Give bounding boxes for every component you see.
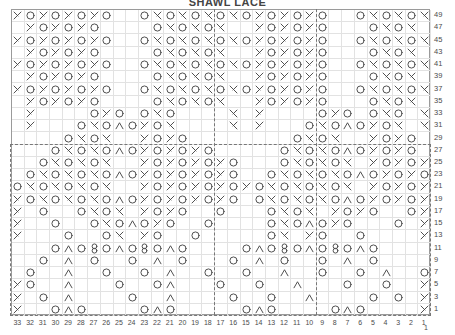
chart-cell[interactable]: [25, 47, 38, 59]
chart-cell[interactable]: [126, 157, 139, 169]
chart-cell[interactable]: [114, 71, 127, 83]
chart-cell[interactable]: [406, 255, 419, 267]
chart-cell[interactable]: [317, 34, 330, 46]
chart-cell[interactable]: [241, 10, 254, 22]
chart-cell[interactable]: [177, 169, 190, 181]
chart-cell[interactable]: [380, 292, 393, 304]
chart-cell[interactable]: [12, 157, 25, 169]
chart-cell[interactable]: [88, 304, 101, 316]
chart-cell[interactable]: [418, 169, 431, 181]
chart-cell[interactable]: [266, 22, 279, 34]
chart-cell[interactable]: [368, 47, 381, 59]
chart-cell[interactable]: [25, 59, 38, 71]
chart-cell[interactable]: [190, 108, 203, 120]
chart-cell[interactable]: [355, 108, 368, 120]
chart-cell[interactable]: [190, 267, 203, 279]
chart-cell[interactable]: [368, 255, 381, 267]
chart-cell[interactable]: [215, 292, 228, 304]
chart-cell[interactable]: [393, 145, 406, 157]
chart-cell[interactable]: [241, 157, 254, 169]
chart-cell[interactable]: [241, 108, 254, 120]
chart-cell[interactable]: [279, 230, 292, 242]
chart-cell[interactable]: [164, 194, 177, 206]
chart-cell[interactable]: [152, 145, 165, 157]
chart-cell[interactable]: [329, 194, 342, 206]
chart-cell[interactable]: [37, 96, 50, 108]
chart-cell[interactable]: [152, 218, 165, 230]
chart-cell[interactable]: [291, 145, 304, 157]
chart-cell[interactable]: [406, 230, 419, 242]
chart-cell[interactable]: [152, 10, 165, 22]
chart-cell[interactable]: [114, 59, 127, 71]
chart-cell[interactable]: [418, 22, 431, 34]
chart-cell[interactable]: [380, 47, 393, 59]
chart-cell[interactable]: [329, 59, 342, 71]
chart-cell[interactable]: [101, 71, 114, 83]
chart-cell[interactable]: [380, 34, 393, 46]
chart-cell[interactable]: [114, 169, 127, 181]
chart-cell[interactable]: [139, 145, 152, 157]
chart-cell[interactable]: [139, 83, 152, 95]
chart-cell[interactable]: [228, 108, 241, 120]
chart-cell[interactable]: [25, 230, 38, 242]
chart-cell[interactable]: [406, 83, 419, 95]
chart-cell[interactable]: [241, 230, 254, 242]
chart-cell[interactable]: [266, 243, 279, 255]
chart-cell[interactable]: [215, 47, 228, 59]
chart-cell[interactable]: [329, 243, 342, 255]
chart-cell[interactable]: [253, 218, 266, 230]
chart-cell[interactable]: [406, 157, 419, 169]
chart-cell[interactable]: [329, 34, 342, 46]
chart-cell[interactable]: [88, 59, 101, 71]
chart-cell[interactable]: [228, 194, 241, 206]
chart-cell[interactable]: [152, 267, 165, 279]
chart-cell[interactable]: [126, 132, 139, 144]
chart-cell[interactable]: [215, 194, 228, 206]
chart-cell[interactable]: [63, 255, 76, 267]
chart-cell[interactable]: [355, 132, 368, 144]
chart-cell[interactable]: [88, 157, 101, 169]
chart-cell[interactable]: [139, 181, 152, 193]
chart-cell[interactable]: [164, 83, 177, 95]
chart-cell[interactable]: [253, 157, 266, 169]
chart-cell[interactable]: [63, 169, 76, 181]
chart-cell[interactable]: [241, 47, 254, 59]
chart-cell[interactable]: [355, 83, 368, 95]
chart-cell[interactable]: [37, 181, 50, 193]
chart-cell[interactable]: [139, 304, 152, 316]
chart-cell[interactable]: [37, 157, 50, 169]
chart-cell[interactable]: [75, 108, 88, 120]
chart-cell[interactable]: [12, 132, 25, 144]
chart-cell[interactable]: [368, 304, 381, 316]
chart-cell[interactable]: [393, 292, 406, 304]
chart-cell[interactable]: [126, 120, 139, 132]
chart-cell[interactable]: [164, 10, 177, 22]
chart-cell[interactable]: [355, 145, 368, 157]
chart-cell[interactable]: [177, 255, 190, 267]
chart-cell[interactable]: [139, 292, 152, 304]
chart-cell[interactable]: [114, 194, 127, 206]
chart-cell[interactable]: [329, 292, 342, 304]
chart-cell[interactable]: [25, 292, 38, 304]
chart-cell[interactable]: [177, 71, 190, 83]
chart-cell[interactable]: [75, 304, 88, 316]
chart-cell[interactable]: [253, 255, 266, 267]
chart-cell[interactable]: [279, 96, 292, 108]
chart-cell[interactable]: [114, 279, 127, 291]
chart-cell[interactable]: [37, 120, 50, 132]
chart-cell[interactable]: [279, 47, 292, 59]
chart-cell[interactable]: [355, 230, 368, 242]
chart-cell[interactable]: [406, 304, 419, 316]
chart-cell[interactable]: [418, 206, 431, 218]
chart-cell[interactable]: [25, 10, 38, 22]
chart-cell[interactable]: [12, 47, 25, 59]
chart-cell[interactable]: [279, 34, 292, 46]
chart-cell[interactable]: [228, 279, 241, 291]
chart-cell[interactable]: [317, 194, 330, 206]
chart-cell[interactable]: [393, 10, 406, 22]
chart-cell[interactable]: [190, 169, 203, 181]
chart-cell[interactable]: [317, 279, 330, 291]
chart-cell[interactable]: [241, 145, 254, 157]
chart-cell[interactable]: [88, 120, 101, 132]
chart-cell[interactable]: [393, 230, 406, 242]
